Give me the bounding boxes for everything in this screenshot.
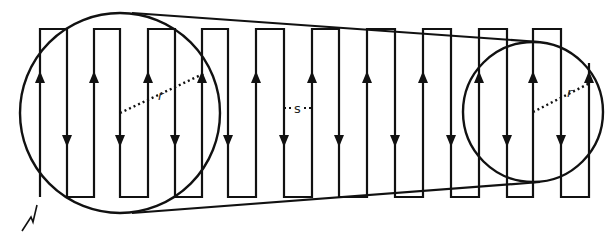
arrow-up-icon: [143, 71, 153, 83]
arrow-down-icon: [446, 135, 456, 147]
arrow-down-icon: [115, 135, 125, 147]
serpentine-path-diagram: r r s: [0, 0, 609, 235]
arrow-up-icon: [89, 71, 99, 83]
arrow-down-icon: [279, 135, 289, 147]
serpentine-line: [40, 29, 589, 197]
arrow-down-icon: [502, 135, 512, 147]
arrow-up-icon: [251, 71, 261, 83]
arrow-down-icon: [556, 135, 566, 147]
arrow-up-icon: [528, 71, 538, 83]
arrow-down-icon: [334, 135, 344, 147]
start-pointer-icon: [22, 205, 37, 231]
arrow-up-icon: [35, 71, 45, 83]
arrow-up-icon: [418, 71, 428, 83]
top-tangent-line: [132, 13, 540, 42]
arrow-down-icon: [62, 135, 72, 147]
arrow-down-icon: [170, 135, 180, 147]
radius-label-large: r: [158, 88, 165, 103]
arrow-up-icon: [307, 71, 317, 83]
dimension-lines: [120, 73, 590, 113]
radius-label-small: r: [567, 85, 574, 100]
arrow-down-icon: [390, 135, 400, 147]
arrow-down-icon: [223, 135, 233, 147]
arrow-up-icon: [362, 71, 372, 83]
spacing-label: s: [294, 101, 301, 116]
serpentine-path: [40, 29, 589, 197]
direction-arrows: [35, 71, 594, 147]
